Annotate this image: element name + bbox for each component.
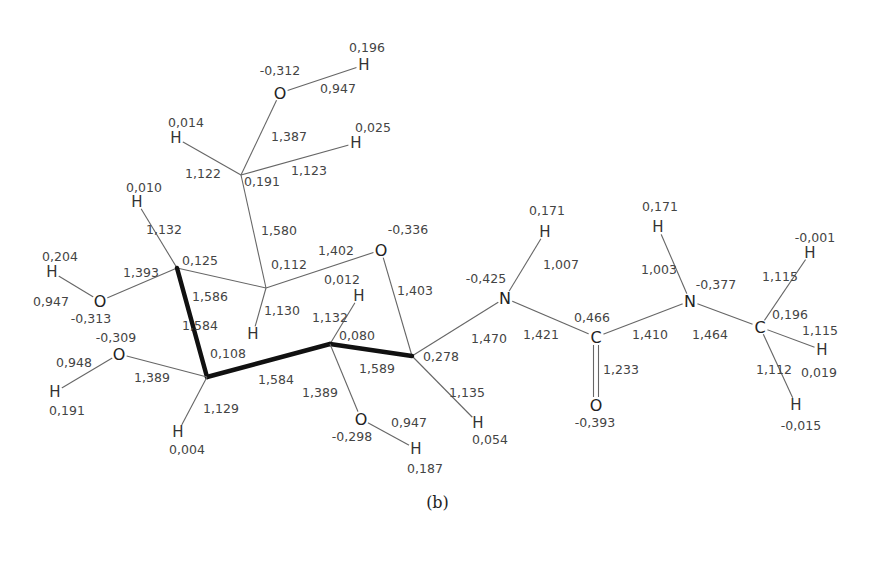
atom-o: O	[355, 410, 368, 429]
bond	[330, 344, 361, 419]
atom-h: H	[353, 287, 364, 305]
charge-label: 0,187	[407, 461, 443, 476]
bond-length-label: 1,464	[692, 327, 728, 342]
bond-length-label: 1,112	[756, 362, 792, 377]
bond-length-label: 0,948	[56, 355, 92, 370]
bond-length-label: 0,947	[33, 294, 69, 309]
charge-label: 0,010	[126, 180, 162, 195]
bond-length-label: 1,123	[291, 163, 327, 178]
atom-h: H	[539, 223, 550, 241]
bond-length-label: 1,580	[261, 223, 297, 238]
bond-lengths-layer: 0,9471,3871,1221,1231,5801,1321,3930,947…	[33, 81, 838, 430]
bond-length-label: 1,233	[603, 362, 639, 377]
bond-length-label: 1,584	[182, 318, 218, 333]
bond	[412, 298, 505, 356]
charge-label: -0,313	[71, 311, 111, 326]
atom-h: H	[410, 440, 421, 458]
bond-length-label: 1,389	[134, 370, 170, 385]
atom-h: H	[652, 218, 663, 236]
bond-length-label: 1,402	[318, 243, 354, 258]
charge-label: 0,171	[642, 199, 678, 214]
atom-h: H	[790, 396, 801, 414]
atom-h: H	[49, 383, 60, 401]
atom-n: N	[684, 292, 696, 311]
charge-label: -0,309	[96, 330, 136, 345]
bond-length-label: 1,584	[258, 372, 294, 387]
atom-h: H	[350, 134, 361, 152]
charge-label: 0,014	[168, 115, 204, 130]
bond-length-label: 1,135	[449, 385, 485, 400]
charge-label: 0,125	[182, 253, 218, 268]
charge-label: -0,001	[795, 230, 835, 245]
atom-h: H	[816, 341, 827, 359]
charge-label: -0,377	[696, 277, 736, 292]
charge-label: -0,425	[466, 271, 506, 286]
bond-length-label: 1,403	[397, 283, 433, 298]
bond	[505, 232, 545, 298]
charge-label: -0,298	[332, 429, 372, 444]
atom-h: H	[131, 193, 142, 211]
atom-h: H	[804, 244, 815, 262]
charge-label: 0,108	[210, 346, 246, 361]
charge-label: 0,278	[423, 349, 459, 364]
atom-h: H	[170, 129, 181, 147]
bond-length-label: 1,470	[471, 331, 507, 346]
atom-h: H	[172, 423, 183, 441]
atom-h: H	[358, 56, 369, 74]
charge-label: 0,466	[574, 310, 610, 325]
atom-o: O	[113, 345, 126, 364]
charges-layer: -0,3120,1960,1910,0140,0250,1250,010-0,3…	[42, 40, 837, 476]
bond-length-label: 1,410	[632, 327, 668, 342]
bond-length-label: 1,132	[312, 310, 348, 325]
bond	[381, 250, 412, 356]
charge-label: 0,171	[529, 203, 565, 218]
charge-label: 0,019	[801, 365, 837, 380]
atom-n: N	[499, 289, 511, 308]
charge-label: 0,112	[271, 257, 307, 272]
bond-length-label: 1,122	[185, 166, 221, 181]
wedge-bond	[330, 344, 412, 356]
charge-label: -0,336	[388, 222, 428, 237]
atom-h: H	[472, 414, 483, 432]
bond-length-label: 1,393	[123, 265, 159, 280]
charge-label: 0,025	[355, 120, 391, 135]
charge-label: 0,196	[772, 307, 808, 322]
charge-label: -0,015	[781, 418, 821, 433]
charge-label: 0,054	[472, 432, 508, 447]
bond-length-label: 1,586	[192, 289, 228, 304]
atom-h: H	[46, 263, 57, 281]
atom-c: C	[754, 318, 765, 337]
bond-length-label: 1,130	[264, 303, 300, 318]
atom-h: H	[247, 325, 258, 343]
atom-o: O	[590, 396, 603, 415]
bond-length-label: 1,389	[302, 385, 338, 400]
bond-length-label: 1,387	[271, 129, 307, 144]
molecule-diagram: OHHHHOHHOHHOHHOHNHCONHCHHH -0,3120,1960,…	[0, 0, 875, 568]
bond	[177, 268, 266, 288]
atom-o: O	[94, 292, 107, 311]
bond-length-label: 1,115	[762, 269, 798, 284]
figure-caption: (b)	[0, 493, 875, 512]
charge-label: 0,204	[42, 249, 78, 264]
charge-label: -0,393	[575, 415, 615, 430]
bond-length-label: 1,129	[203, 401, 239, 416]
bond-length-label: 0,947	[391, 415, 427, 430]
bond-length-label: 0,947	[320, 81, 356, 96]
charge-label: 0,196	[349, 40, 385, 55]
charge-label: 0,080	[339, 328, 375, 343]
bond-length-label: 1,003	[641, 262, 677, 277]
charge-label: -0,312	[260, 63, 300, 78]
atom-o: O	[375, 241, 388, 260]
atom-c: C	[590, 328, 601, 347]
bond-length-label: 1,115	[802, 323, 838, 338]
atom-o: O	[274, 84, 287, 103]
bond-length-label: 1,132	[146, 222, 182, 237]
bond-length-label: 1,589	[359, 361, 395, 376]
bond-length-label: 1,007	[543, 257, 579, 272]
charge-label: 0,191	[244, 174, 280, 189]
charge-label: 0,191	[49, 403, 85, 418]
bond	[690, 301, 760, 327]
charge-label: 0,004	[169, 442, 205, 457]
atoms-layer: OHHHHOHHOHHOHHOHNHCONHCHHH	[44, 56, 830, 458]
bond-length-label: 1,421	[523, 327, 559, 342]
